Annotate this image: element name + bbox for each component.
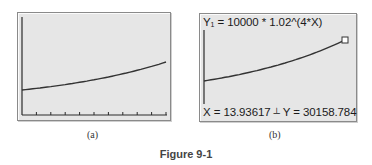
equation-label: Y1 = 10000 * 1.02^(4*X) (203, 16, 322, 28)
graph-a (18, 13, 170, 120)
figure-caption: Figure 9-1 (0, 148, 372, 160)
calculator-screen-b: Y1 = 10000 * 1.02^(4*X) X = 13.93617┴Y =… (199, 13, 357, 122)
graph-b (200, 14, 356, 121)
x-value: X = 13.93617 (203, 106, 271, 118)
trace-cursor-icon (342, 37, 348, 43)
exponential-curve (22, 62, 166, 90)
panel-b-caption: (b) (269, 129, 281, 140)
cursor-separator-icon: ┴ (274, 108, 280, 118)
y-value: Y = 30158.784 (283, 106, 357, 118)
calculator-screen-a (17, 12, 171, 121)
exponential-curve (204, 40, 345, 81)
trace-coordinates: X = 13.93617┴Y = 30158.784 (203, 106, 356, 118)
panel-a-caption: (a) (87, 129, 98, 140)
